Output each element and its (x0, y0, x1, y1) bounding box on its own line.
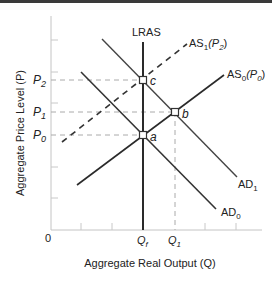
as-ad-diagram: c b a LRAS AS1(P2) AS0(P0) AD1 AD0 P2 P1… (0, 0, 272, 282)
point-b-marker (172, 109, 179, 116)
qf-tick-label: Qf (137, 234, 149, 249)
as0-label: AS0(P0) (227, 68, 265, 83)
origin-label: 0 (45, 232, 51, 244)
ad1-label: AD1 (238, 178, 258, 193)
x-axis-title: Aggregate Real Output (Q) (84, 257, 215, 269)
p0-tick-label: P0 (33, 128, 46, 144)
ad0-curve (81, 72, 216, 209)
point-c-marker (140, 77, 147, 84)
point-a-marker (140, 132, 147, 139)
axes (51, 16, 262, 230)
lras-label: LRAS (132, 26, 161, 38)
p1-tick-label: P1 (33, 105, 46, 121)
ad1-curve (102, 39, 237, 177)
point-b-label: b (182, 107, 189, 121)
ad0-label: AD0 (221, 206, 241, 221)
x-axis-ticks (81, 223, 236, 230)
y-axis-ticks (51, 40, 58, 198)
equilibrium-points (140, 77, 179, 139)
point-c-label: c (150, 74, 156, 88)
y-axis-title: Aggregate Price Level (P) (14, 70, 26, 196)
point-a-label: a (150, 130, 157, 144)
q1-tick-label: Q1 (168, 234, 181, 249)
p2-tick-label: P2 (33, 73, 46, 89)
guide-lines (51, 80, 175, 230)
as1-curve (62, 44, 187, 142)
as1-label: AS1(P2) (189, 37, 227, 52)
